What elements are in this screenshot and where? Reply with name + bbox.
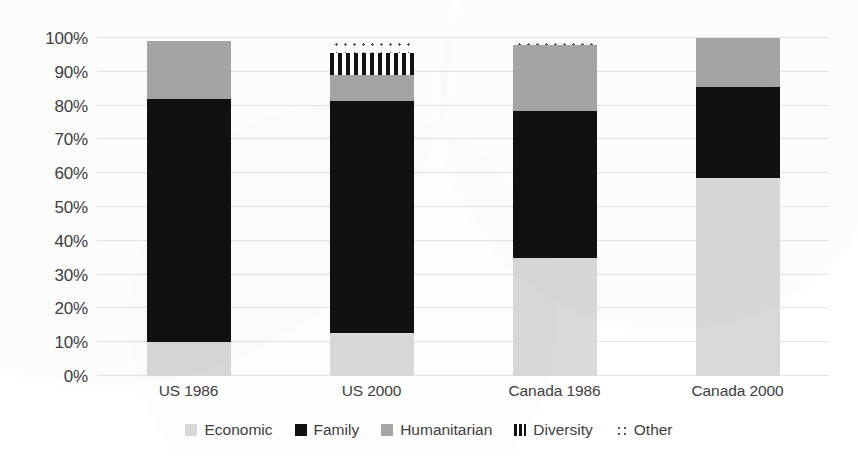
y-axis-tick-label: 70% — [4, 131, 88, 148]
legend-item-other[interactable]: Other — [615, 421, 673, 439]
y-axis-tick-label: 100% — [4, 30, 88, 47]
x-axis-tick-label: US 2000 — [280, 382, 463, 400]
bar-segment-other[interactable] — [513, 38, 597, 45]
bar-segment-economic[interactable] — [147, 342, 231, 376]
y-axis-tick-label: 50% — [4, 199, 88, 216]
bar-canada-2000[interactable] — [696, 38, 780, 376]
y-axis-tick-label: 30% — [4, 267, 88, 284]
humanitarian-swatch-icon — [381, 424, 393, 436]
bar-segment-family[interactable] — [330, 101, 414, 334]
legend-item-label: Other — [634, 421, 673, 439]
legend-item-economic[interactable]: Economic — [185, 421, 272, 439]
bar-us-2000[interactable] — [330, 38, 414, 376]
x-axis-labels: US 1986US 2000Canada 1986Canada 2000 — [97, 382, 829, 408]
y-axis-labels: 0%10%20%30%40%50%60%70%80%90%100% — [0, 38, 88, 376]
bar-canada-1986[interactable] — [513, 38, 597, 376]
plot-area — [97, 38, 829, 376]
x-axis-tick-label: Canada 2000 — [646, 382, 829, 400]
economic-swatch-icon — [185, 424, 197, 436]
bar-segment-economic[interactable] — [696, 178, 780, 376]
y-axis-tick-label: 20% — [4, 300, 88, 317]
bar-segment-family[interactable] — [696, 87, 780, 178]
legend-item-label: Economic — [204, 421, 272, 439]
x-axis-tick-label: Canada 1986 — [463, 382, 646, 400]
chart-legend: EconomicFamilyHumanitarianDiversityOther — [0, 418, 858, 442]
legend-item-label: Diversity — [533, 421, 592, 439]
x-axis-tick-label: US 1986 — [97, 382, 280, 400]
bar-us-1986[interactable] — [147, 38, 231, 376]
bar-segment-family[interactable] — [147, 99, 231, 342]
y-axis-tick-label: 80% — [4, 98, 88, 115]
bar-segment-other[interactable] — [330, 38, 414, 53]
legend-item-diversity[interactable]: Diversity — [514, 421, 592, 439]
y-axis-tick-label: 10% — [4, 334, 88, 351]
y-axis-tick-label: 0% — [4, 368, 88, 385]
bar-segment-economic[interactable] — [513, 258, 597, 376]
legend-item-label: Family — [314, 421, 360, 439]
bar-segment-diversity[interactable] — [330, 53, 414, 75]
diversity-swatch-icon — [514, 424, 526, 436]
bar-segment-family[interactable] — [513, 111, 597, 258]
legend-item-family[interactable]: Family — [295, 421, 360, 439]
bar-segment-humanitarian[interactable] — [513, 45, 597, 111]
y-axis-tick-label: 40% — [4, 233, 88, 250]
bar-segment-other[interactable] — [147, 38, 231, 41]
bar-segment-humanitarian[interactable] — [147, 41, 231, 98]
bar-segment-humanitarian[interactable] — [696, 38, 780, 87]
legend-item-humanitarian[interactable]: Humanitarian — [381, 421, 492, 439]
y-axis-tick-label: 60% — [4, 165, 88, 182]
legend-item-label: Humanitarian — [400, 421, 492, 439]
other-swatch-icon — [615, 424, 627, 436]
stacked-bar-chart: 0%10%20%30%40%50%60%70%80%90%100% US 198… — [0, 0, 858, 456]
bar-segment-economic[interactable] — [330, 333, 414, 376]
bar-segment-humanitarian[interactable] — [330, 75, 414, 100]
y-axis-tick-label: 90% — [4, 64, 88, 81]
family-swatch-icon — [295, 424, 307, 436]
